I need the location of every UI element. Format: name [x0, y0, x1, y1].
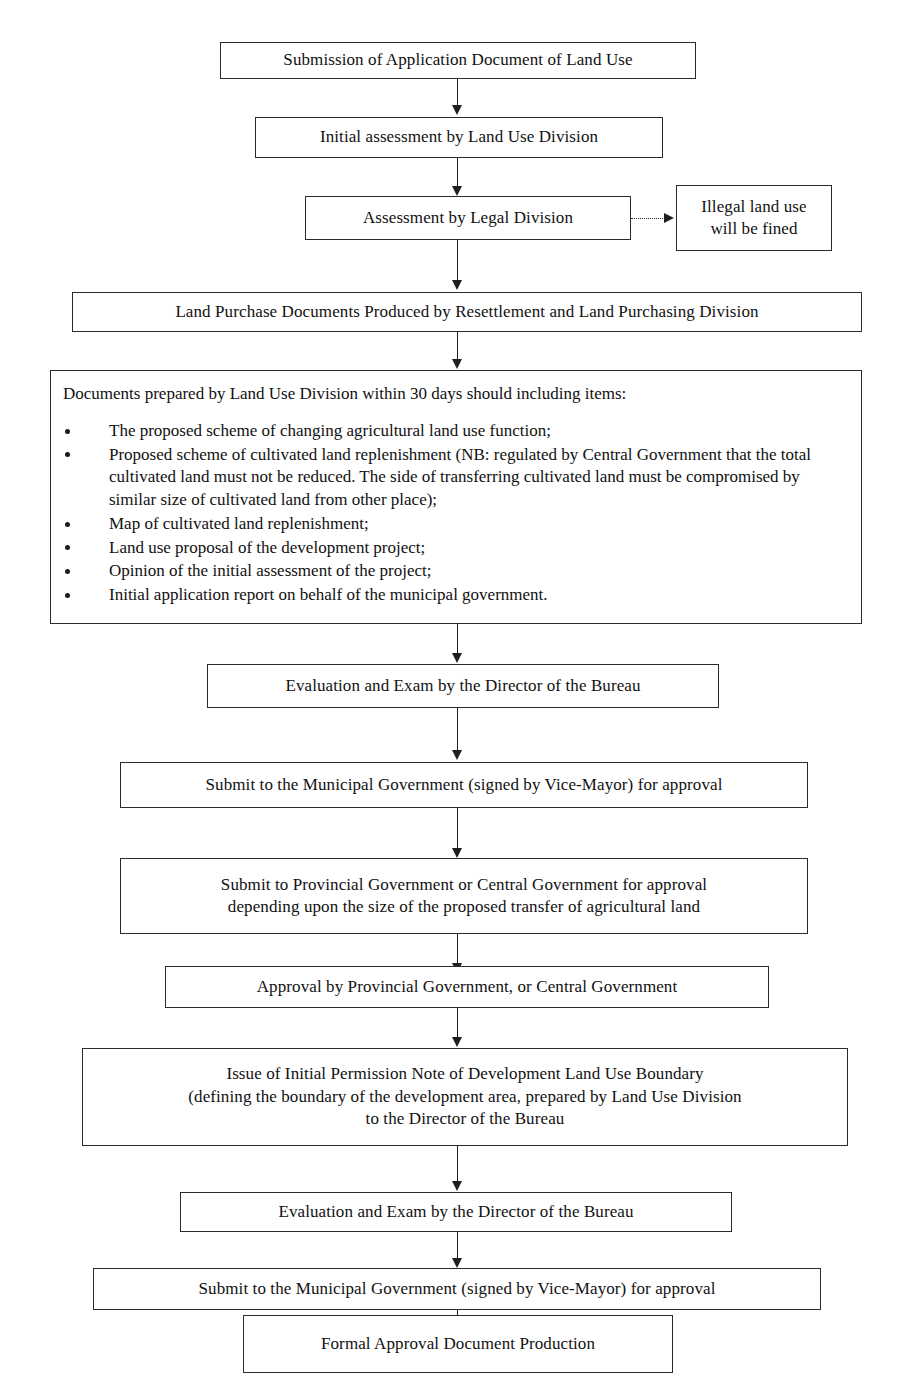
- node-land-purchase: Land Purchase Documents Produced by Rese…: [72, 292, 862, 332]
- arrowhead-documents-to-evaluation-1: [452, 653, 462, 663]
- node-initial-assessment: Initial assessment by Land Use Division: [255, 117, 663, 158]
- node-land-purchase-label: Land Purchase Documents Produced by Rese…: [175, 301, 758, 323]
- connector-legal-to-illegal: [631, 218, 667, 219]
- list-item-label: The proposed scheme of changing agricult…: [109, 420, 847, 443]
- arrowhead-municipal-1-to-provincial: [452, 848, 462, 858]
- connector-evaluation-1-to-municipal-1: [457, 708, 458, 752]
- documents-box-heading: Documents prepared by Land Use Division …: [63, 383, 847, 406]
- list-item: The proposed scheme of changing agricult…: [63, 420, 847, 443]
- connector-land-purchase-to-documents: [457, 332, 458, 362]
- node-documents-prepared: Documents prepared by Land Use Division …: [50, 370, 862, 624]
- arrowhead-permission-note-to-evaluation-2: [452, 1181, 462, 1191]
- node-evaluation-exam-1-label: Evaluation and Exam by the Director of t…: [285, 675, 640, 697]
- documents-box-list: The proposed scheme of changing agricult…: [63, 420, 847, 607]
- node-submit-municipal-2: Submit to the Municipal Government (sign…: [93, 1268, 821, 1310]
- node-submit-municipal-1-label: Submit to the Municipal Government (sign…: [206, 774, 723, 796]
- bullet-icon: [65, 569, 70, 574]
- node-permission-note: Issue of Initial Permission Note of Deve…: [82, 1048, 848, 1146]
- node-submission-label: Submission of Application Document of La…: [283, 49, 632, 71]
- arrowhead-evaluation-1-to-municipal-1: [452, 750, 462, 760]
- node-legal-assessment-label: Assessment by Legal Division: [363, 207, 573, 229]
- node-submit-municipal-2-label: Submit to the Municipal Government (sign…: [199, 1278, 716, 1300]
- bullet-icon: [65, 522, 70, 527]
- list-item: Opinion of the initial assessment of the…: [63, 560, 847, 583]
- arrowhead-approval-to-permission-note: [452, 1037, 462, 1047]
- node-evaluation-exam-1: Evaluation and Exam by the Director of t…: [207, 664, 719, 708]
- flowchart-canvas: Submission of Application Document of La…: [0, 0, 912, 1390]
- node-approval-provincial: Approval by Provincial Government, or Ce…: [165, 966, 769, 1008]
- bullet-icon: [65, 593, 70, 598]
- connector-initial-to-legal: [457, 158, 458, 188]
- list-item-label: Initial application report on behalf of …: [109, 584, 847, 607]
- arrowhead-evaluation-2-to-municipal-2: [452, 1258, 462, 1268]
- list-item: Land use proposal of the development pro…: [63, 537, 847, 560]
- node-formal-approval-label: Formal Approval Document Production: [321, 1333, 595, 1355]
- node-illegal-fined-label: Illegal land use will be fined: [701, 196, 806, 241]
- node-evaluation-exam-2-label: Evaluation and Exam by the Director of t…: [278, 1201, 633, 1223]
- node-submission: Submission of Application Document of La…: [220, 42, 696, 79]
- list-item-label: Land use proposal of the development pro…: [109, 537, 847, 560]
- node-permission-note-label: Issue of Initial Permission Note of Deve…: [188, 1063, 741, 1130]
- list-item: Map of cultivated land replenishment;: [63, 513, 847, 536]
- connector-legal-to-land-purchase: [457, 240, 458, 282]
- bullet-icon: [65, 429, 70, 434]
- node-initial-assessment-label: Initial assessment by Land Use Division: [320, 126, 598, 148]
- connector-evaluation-2-to-municipal-2: [457, 1232, 458, 1260]
- connector-permission-note-to-evaluation-2: [457, 1146, 458, 1184]
- list-item-label: Map of cultivated land replenishment;: [109, 513, 847, 536]
- connector-documents-to-evaluation-1: [457, 624, 458, 656]
- node-submit-municipal-1: Submit to the Municipal Government (sign…: [120, 762, 808, 808]
- list-item-label: Opinion of the initial assessment of the…: [109, 560, 847, 583]
- arrowhead-submission-to-initial: [452, 105, 462, 115]
- bullet-icon: [65, 452, 70, 457]
- node-evaluation-exam-2: Evaluation and Exam by the Director of t…: [180, 1192, 732, 1232]
- node-approval-provincial-label: Approval by Provincial Government, or Ce…: [257, 976, 678, 998]
- bullet-icon: [65, 545, 70, 550]
- node-formal-approval: Formal Approval Document Production: [243, 1315, 673, 1373]
- list-item-label: Proposed scheme of cultivated land reple…: [109, 444, 847, 512]
- arrowhead-initial-to-legal: [452, 186, 462, 196]
- node-submit-provincial: Submit to Provincial Government or Centr…: [120, 858, 808, 934]
- arrowhead-legal-to-land-purchase: [452, 280, 462, 290]
- node-legal-assessment: Assessment by Legal Division: [305, 196, 631, 240]
- connector-provincial-to-approval: [457, 934, 458, 966]
- arrowhead-land-purchase-to-documents: [452, 359, 462, 369]
- list-item: Proposed scheme of cultivated land reple…: [63, 444, 847, 512]
- list-item: Initial application report on behalf of …: [63, 584, 847, 607]
- node-illegal-fined: Illegal land use will be fined: [676, 185, 832, 251]
- connector-approval-to-permission-note: [457, 1008, 458, 1040]
- connector-submission-to-initial: [457, 79, 458, 107]
- node-submit-provincial-label: Submit to Provincial Government or Centr…: [221, 874, 707, 919]
- connector-municipal-1-to-provincial: [457, 808, 458, 850]
- arrowhead-legal-to-illegal: [664, 213, 674, 223]
